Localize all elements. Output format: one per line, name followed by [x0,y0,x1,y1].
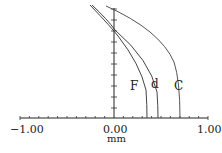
curve-d [92,5,158,118]
curve-label-d: d [151,78,159,90]
curve-c [106,6,180,118]
curve-label-c: C [174,80,183,92]
curve-label-f: F [130,80,138,92]
x-tick-label-min: −1.00 [10,124,44,135]
x-axis-unit-label: mm [107,134,126,144]
x-tick-label-max: 1.00 [197,124,222,135]
curve-f [90,5,147,118]
